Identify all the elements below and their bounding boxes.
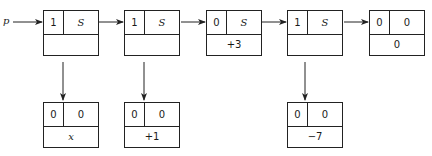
node-tag: 1 bbox=[288, 11, 308, 34]
node-value: +3 bbox=[207, 34, 261, 55]
sub-node-3: 00 −7 bbox=[287, 102, 343, 148]
node-field: S bbox=[145, 11, 179, 34]
node-field: 0 bbox=[64, 103, 98, 126]
list-node-1: 1S bbox=[43, 10, 99, 56]
sub-node-2: 00 +1 bbox=[124, 102, 180, 148]
node-field: 0 bbox=[308, 103, 342, 126]
node-value: x bbox=[44, 126, 98, 147]
node-field: S bbox=[308, 11, 342, 34]
node-value: −7 bbox=[288, 126, 342, 147]
node-tag: 1 bbox=[44, 11, 64, 34]
sub-node-1: 00 x bbox=[43, 102, 99, 148]
node-field: 0 bbox=[145, 103, 179, 126]
node-field: S bbox=[64, 11, 98, 34]
node-value bbox=[125, 34, 179, 55]
pointer-label: p bbox=[3, 15, 9, 26]
list-node-5: 00 0 bbox=[369, 10, 425, 56]
node-tag: 0 bbox=[125, 103, 145, 126]
node-tag: 0 bbox=[288, 103, 308, 126]
node-value bbox=[288, 34, 342, 55]
node-tag: 0 bbox=[44, 103, 64, 126]
node-tag: 1 bbox=[125, 11, 145, 34]
node-value bbox=[44, 34, 98, 55]
node-field: S bbox=[227, 11, 261, 34]
list-node-4: 1S bbox=[287, 10, 343, 56]
node-tag: 0 bbox=[207, 11, 227, 34]
list-node-2: 1S bbox=[124, 10, 180, 56]
node-tag: 0 bbox=[370, 11, 390, 34]
list-node-3: 0S +3 bbox=[206, 10, 262, 56]
node-value: +1 bbox=[125, 126, 179, 147]
node-field: 0 bbox=[390, 11, 424, 34]
node-value: 0 bbox=[370, 34, 424, 55]
